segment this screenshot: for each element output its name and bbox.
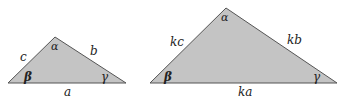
small-angle-beta: β bbox=[23, 70, 32, 84]
small-side-b: b bbox=[90, 44, 98, 58]
large-side-ka: ka bbox=[238, 85, 252, 99]
similar-triangles-diagram: α β γ c b a α β γ kc kb ka bbox=[0, 0, 341, 102]
large-side-kb: kb bbox=[287, 33, 302, 47]
large-angle-alpha: α bbox=[221, 11, 229, 24]
small-angle-alpha: α bbox=[51, 40, 59, 53]
small-side-c: c bbox=[20, 50, 27, 64]
small-angle-gamma: γ bbox=[101, 70, 109, 84]
small-side-a: a bbox=[64, 85, 71, 99]
large-angle-beta: β bbox=[163, 70, 172, 84]
large-triangle: α β γ kc kb ka bbox=[150, 8, 337, 99]
large-side-kc: kc bbox=[170, 35, 184, 49]
large-angle-gamma: γ bbox=[313, 70, 321, 84]
small-triangle: α β γ c b a bbox=[8, 37, 126, 99]
